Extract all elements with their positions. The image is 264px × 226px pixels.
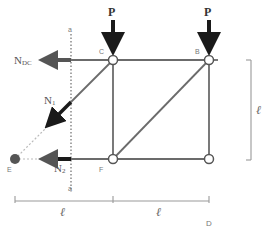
dimension-label-left: ℓ xyxy=(60,206,65,218)
dimension-label-vertical: ℓ xyxy=(256,104,261,116)
node-B xyxy=(205,56,214,65)
pivot-point-E xyxy=(10,154,20,164)
section-label-top: a xyxy=(68,26,72,33)
node-F xyxy=(109,155,118,164)
internal-force-arrows xyxy=(48,60,71,159)
dimension-label-right: ℓ xyxy=(156,206,161,218)
node-label-B: B xyxy=(195,48,200,55)
dimension-lines xyxy=(15,60,251,203)
force-label-N2: N2 xyxy=(54,163,65,174)
force-label-N-DC: NDC xyxy=(14,55,32,66)
section-label-bottom: a xyxy=(68,185,72,192)
node-label-C: C xyxy=(99,48,104,55)
load-arrows xyxy=(113,20,209,44)
node-D xyxy=(205,155,214,164)
node-label-E: E xyxy=(7,166,12,173)
member-diagonal-CE xyxy=(71,60,113,102)
node-C xyxy=(109,56,118,65)
dashed-extensions xyxy=(15,128,46,159)
node-label-F: F xyxy=(99,166,103,173)
load-label-C: P xyxy=(108,6,115,18)
force-label-N1: N1 xyxy=(44,95,55,106)
cropped-label: D xyxy=(206,220,212,226)
load-label-B: P xyxy=(204,6,211,18)
truss-diagram: P P C B F E a a NDC N1 N2 ℓ ℓ ℓ D xyxy=(0,0,264,226)
truss-drawing xyxy=(0,0,264,226)
truss-members xyxy=(71,60,218,159)
member-diagonal-FB xyxy=(113,60,209,159)
